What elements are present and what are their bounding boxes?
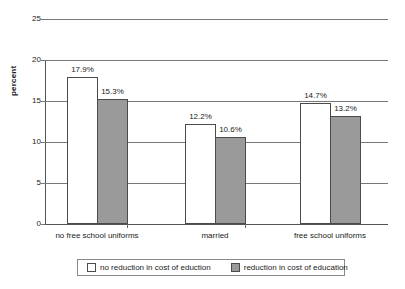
bar-group1-no-reduction <box>67 77 98 224</box>
legend-item-no-reduction: no reduction in cost of eduction <box>87 263 211 272</box>
legend-label-no-reduction: no reduction in cost of eduction <box>100 264 211 272</box>
y-tick-label-10: 10 <box>7 138 41 146</box>
bar-value-label-1: 17.9% <box>60 66 105 74</box>
legend-swatch-light-icon <box>87 263 96 272</box>
x-tick-mark-1 <box>127 224 128 228</box>
gridline-20 <box>45 60 388 61</box>
bar-group3-no-reduction <box>300 103 331 224</box>
x-tick-mark-2 <box>245 224 246 228</box>
bar-value-label-4: 10.6% <box>208 126 253 134</box>
bar-group1-reduction <box>97 99 128 224</box>
y-tick-label-0: 0 <box>7 220 41 228</box>
bar-value-label-6: 13.2% <box>323 105 368 113</box>
bar-group2-reduction <box>215 137 246 224</box>
bar-value-label-3: 12.2% <box>178 113 223 121</box>
legend-swatch-dark-icon <box>231 263 240 272</box>
y-axis-ticks: 25 20 15 10 5 0 <box>0 0 41 289</box>
gridline-25 <box>45 19 388 20</box>
x-axis-label-married: married <box>175 231 255 240</box>
y-tick-label-20: 20 <box>7 56 41 64</box>
y-tick-label-15: 15 <box>7 97 41 105</box>
bar-value-label-5: 14.7% <box>293 92 338 100</box>
bar-value-label-2: 15.3% <box>90 88 135 96</box>
bar-group2-no-reduction <box>185 124 216 224</box>
y-tick-label-25: 25 <box>7 15 41 23</box>
y-axis-title: percent <box>9 66 18 96</box>
y-tick-label-5: 5 <box>7 179 41 187</box>
chart-legend: no reduction in cost of eduction reducti… <box>77 259 345 276</box>
x-axis-label-free-school-uniforms: free school uniforms <box>275 231 385 240</box>
legend-label-reduction: reduction in cost of education <box>244 264 348 272</box>
x-axis-label-no-free-school-uniforms: no free school uniforms <box>37 231 157 240</box>
bar-chart: 25 20 15 10 5 0 percent 17.9% 15.3 <box>0 0 405 289</box>
legend-item-reduction: reduction in cost of education <box>231 263 348 272</box>
plot-area: 17.9% 15.3% 12.2% 10.6% 14.7% 13.2% <box>45 19 388 224</box>
bar-group3-reduction <box>330 116 361 224</box>
x-axis-line <box>45 224 388 225</box>
